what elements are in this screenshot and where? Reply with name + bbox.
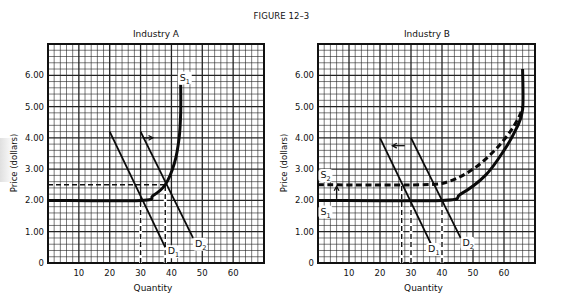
x-tick-label: 40 bbox=[166, 268, 177, 278]
y-axis-label: Price (dollars) bbox=[279, 134, 289, 193]
x-tick-label: 30 bbox=[135, 268, 146, 278]
x-axis-label: Quantity bbox=[404, 283, 444, 293]
x-tick-label: 20 bbox=[104, 268, 115, 278]
x-tick-label: 50 bbox=[468, 268, 479, 278]
label-s2: S2 bbox=[318, 169, 332, 183]
label-s1: S1 bbox=[318, 206, 332, 220]
curve-d1 bbox=[110, 132, 166, 248]
label-d2: D2 bbox=[460, 237, 474, 251]
y-tick-label: 1.00 bbox=[295, 227, 314, 237]
plot-frame bbox=[48, 44, 264, 263]
x-tick-label: 60 bbox=[499, 268, 510, 278]
y-tick-label: 0 bbox=[309, 258, 314, 268]
y-tick-label: 4.00 bbox=[295, 133, 314, 143]
x-tick-label: 40 bbox=[437, 268, 448, 278]
y-tick-label: 3.00 bbox=[25, 164, 44, 174]
chart-industry-b: Industry B10203040506001.002.003.004.005… bbox=[279, 29, 535, 293]
y-tick-label: 4.00 bbox=[25, 133, 44, 143]
y-tick-label: 3.00 bbox=[295, 164, 314, 174]
y-axis-label: Price (dollars) bbox=[9, 134, 19, 193]
y-tick-label: 2.00 bbox=[25, 195, 44, 205]
y-tick-label: 2.00 bbox=[295, 195, 314, 205]
label-d2: D2 bbox=[193, 238, 207, 252]
chart-industry-a: Industry A10203040506001.002.003.004.005… bbox=[9, 29, 264, 293]
y-tick-label: 1.00 bbox=[25, 227, 44, 237]
y-tick-label: 0 bbox=[39, 258, 44, 268]
x-tick-label: 10 bbox=[344, 268, 355, 278]
curve-d1 bbox=[380, 138, 433, 248]
grid bbox=[48, 44, 264, 263]
chart-title: Industry A bbox=[133, 29, 180, 39]
y-tick-label: 5.00 bbox=[295, 102, 314, 112]
x-tick-label: 20 bbox=[375, 268, 386, 278]
x-axis-label: Quantity bbox=[134, 283, 174, 293]
x-tick-label: 30 bbox=[406, 268, 417, 278]
y-tick-label: 6.00 bbox=[25, 70, 44, 80]
figure-svg: Industry A10203040506001.002.003.004.005… bbox=[0, 0, 563, 308]
label-s1: S1 bbox=[178, 72, 192, 86]
x-tick-label: 60 bbox=[228, 268, 239, 278]
arrow-up-icon bbox=[334, 186, 339, 199]
chart-title: Industry B bbox=[404, 29, 450, 39]
y-tick-label: 6.00 bbox=[295, 70, 314, 80]
label-d1: D1 bbox=[166, 245, 180, 259]
x-tick-label: 50 bbox=[197, 268, 208, 278]
x-tick-label: 10 bbox=[73, 268, 84, 278]
label-d1: D1 bbox=[426, 243, 440, 257]
y-tick-label: 5.00 bbox=[25, 102, 44, 112]
